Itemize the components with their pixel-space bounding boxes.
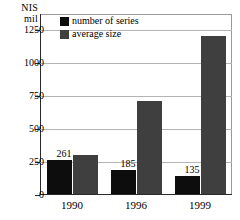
bar-1990-number-of-series [47, 160, 72, 194]
bar-value-label: 261 [35, 149, 72, 159]
y-axis-unit-label: NIS mil [4, 2, 38, 24]
legend: number of seriesaverage size [60, 15, 139, 41]
bar-value-label: 135 [163, 165, 200, 175]
bar-1996-number-of-series [111, 170, 136, 194]
legend-item: average size [60, 28, 139, 40]
bar-value-label: 185 [99, 159, 136, 169]
bar-1999-average-size [201, 36, 226, 194]
legend-label: average size [72, 28, 121, 40]
bar-1990-average-size [73, 155, 98, 194]
bar-1996-average-size [137, 101, 162, 194]
bar-group [47, 14, 98, 194]
legend-swatch-icon [60, 30, 69, 39]
x-axis-label-1999: 1999 [168, 199, 232, 211]
x-axis-label-1996: 1996 [104, 199, 168, 211]
bar-chart: NIS mil 025050075010001250 199019961999 … [0, 0, 240, 220]
y-axis-unit-line-1: NIS [4, 2, 38, 13]
legend-item: number of series [60, 15, 139, 27]
legend-label: number of series [72, 15, 139, 27]
bars-layer [40, 14, 232, 194]
x-axis-label-1990: 1990 [40, 199, 104, 211]
y-axis-unit-line-2: mil [4, 13, 38, 24]
legend-swatch-icon [60, 17, 69, 26]
bar-1999-number-of-series [175, 176, 200, 194]
